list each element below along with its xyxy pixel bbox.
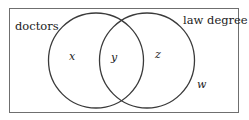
region-y-label: y [110,51,118,64]
law-degree-label: law degree [183,13,248,27]
region-w-label: w [197,78,207,91]
venn-diagram: doctors law degree x y z w [0,0,249,120]
doctors-label: doctors [15,19,59,33]
region-x-label: x [69,50,76,63]
region-z-label: z [154,48,161,61]
